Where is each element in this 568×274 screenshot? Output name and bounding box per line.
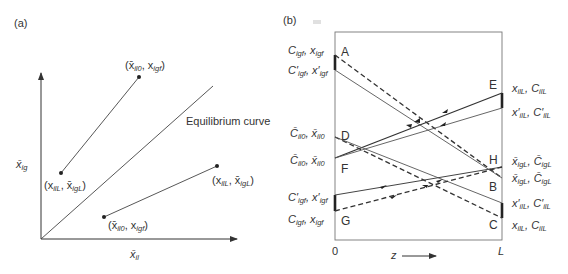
lower-line-end-point [215, 164, 219, 168]
line-D-C-solid [335, 137, 502, 203]
equilibrium-curve-label: Equilibrium curve [186, 115, 270, 127]
line-G-H-dashed [335, 167, 502, 211]
smudge-mark [313, 20, 321, 24]
line-G-H-solid [335, 167, 502, 195]
upper-line-start-point [59, 171, 63, 175]
z-end-label: L [498, 245, 504, 257]
left-label-0: Cigf, xigf [288, 44, 324, 58]
line-D-C-dashed [335, 137, 502, 218]
upper-line-start-label: (xilL, x̄igL) [44, 179, 86, 193]
arrow-head-upper-FE [442, 109, 448, 113]
point-E: E [489, 78, 497, 92]
line-A-B-dashed [335, 55, 502, 178]
point-B: B [489, 180, 497, 194]
x-axis-label: x̄il [129, 248, 139, 262]
arrow-head-lower-FE [440, 122, 446, 126]
arrow-head-solid-GH-2 [436, 179, 443, 183]
left-label-3: C̄il0, x̄il0 [290, 154, 325, 168]
right-labels: xilL, CilL x′ilL, C′ilL x̄igL, C̄igL x̄i… [511, 82, 552, 233]
line-F-E-upper [335, 93, 502, 158]
z-start-label: 0 [332, 245, 338, 257]
z-axis-label: z [390, 249, 397, 261]
left-label-4: C′igf, x′igf [288, 191, 328, 205]
column-frame [335, 32, 502, 240]
lower-operating-line [104, 166, 217, 217]
arrow-head-solid-AB [406, 124, 412, 128]
diagram-canvas: (a) Equilibrium curve (xilL, x̄igL) (x̄i… [0, 0, 568, 274]
line-F-E-lower [335, 108, 502, 158]
upper-line-end-label: (x̄il0, xigf) [125, 59, 165, 73]
left-label-1: C′igf, x′igf [288, 64, 328, 78]
right-label-4: x′ilL, C′ilL [511, 197, 551, 211]
arrow-head-solid-GH [380, 185, 387, 189]
panel-b: (b) A [283, 14, 552, 261]
lower-line-end-label: (xilL, x̄igL) [212, 174, 254, 188]
point-H: H [489, 153, 498, 167]
left-label-5: Cigf, xigf [288, 213, 324, 227]
right-label-2: x̄igL, C̄igL [511, 155, 552, 169]
right-label-5: xilL, CilL [511, 219, 547, 233]
line-A-B-solid [335, 70, 502, 178]
y-axis-label: x̄ig [15, 158, 28, 172]
left-labels: Cigf, xigf C′igf, x′igf C̄il0, x̄il0 C̄i… [288, 44, 328, 227]
right-label-0: xilL, CilL [511, 82, 547, 96]
right-label-3: x̄igL, C̄igL [511, 172, 552, 186]
upper-line-end-point [137, 75, 141, 79]
panel-a: (a) Equilibrium curve (xilL, x̄igL) (x̄i… [14, 17, 270, 262]
point-F: F [341, 162, 348, 176]
panel-a-label: (a) [14, 17, 27, 29]
equilibrium-curve [41, 86, 213, 239]
point-C: C [489, 218, 498, 232]
left-label-2: C̄il0, x̄il0 [290, 127, 325, 141]
upper-operating-line [61, 77, 139, 173]
point-A: A [341, 45, 349, 59]
right-label-1: x′ilL, C′ilL [511, 106, 551, 120]
lower-line-start-point [102, 215, 106, 219]
point-D: D [341, 129, 350, 143]
arrow-head-dashed-AB [414, 118, 420, 123]
panel-b-label: (b) [283, 14, 296, 26]
point-G: G [341, 214, 350, 228]
lower-line-start-label: (x̄il0, xigf) [108, 219, 148, 233]
